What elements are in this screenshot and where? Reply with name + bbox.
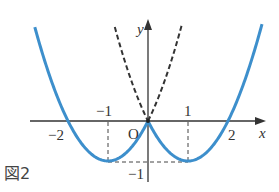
x-tick-label-2: 2 <box>228 127 236 143</box>
x-tick-label-1: 1 <box>184 103 192 119</box>
origin-point <box>146 119 150 123</box>
y-axis-arrow-icon <box>144 19 152 30</box>
origin-label: O <box>128 126 139 142</box>
x-tick-label-neg1: −1 <box>96 103 112 119</box>
y-axis-label: y <box>135 21 144 37</box>
function-graph: y x O −2 −1 1 2 −1 <box>0 0 279 192</box>
x-tick-label-neg2: −2 <box>48 127 64 143</box>
y-axis <box>144 19 152 182</box>
x-axis-label: x <box>258 125 266 141</box>
x-axis-arrow-icon <box>255 117 266 125</box>
y-tick-label-neg1: −1 <box>128 166 144 182</box>
figure-caption: 図2 <box>4 160 30 184</box>
